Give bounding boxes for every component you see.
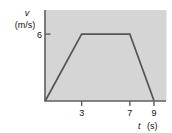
y-axis-symbol-label: v (25, 8, 30, 18)
velocity-time-graph-figure: v (m/s) 6 3 7 9 t (s) (0, 0, 172, 133)
x-axis-symbol-label: t (138, 121, 141, 131)
x-tick-label-7: 7 (127, 108, 132, 118)
y-axis-units-label: (m/s) (15, 20, 36, 30)
x-tick-label-3: 3 (79, 108, 84, 118)
y-tick-label-6: 6 (37, 30, 42, 40)
velocity-time-chart: v (m/s) 6 3 7 9 t (s) (0, 0, 172, 133)
plot-area-background (45, 10, 167, 101)
x-tick-label-9: 9 (151, 108, 156, 118)
x-axis-units-label: (s) (147, 121, 158, 131)
